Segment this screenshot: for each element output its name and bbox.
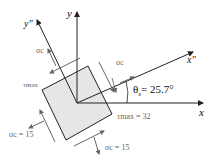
- x-axis-label: x: [199, 107, 204, 118]
- y-rotated-axis-label: y": [24, 19, 33, 29]
- sigma-bottom-left-label: σc = 15: [9, 131, 33, 139]
- tau-top-shear-arrow: [50, 58, 80, 73]
- tau-left-shear-arrow: [40, 110, 55, 142]
- stress-element-diagram: y y" x" x θs= 25.7° σc σc τmax τmax = 32…: [0, 0, 213, 164]
- tau-left-label: τmax: [23, 82, 38, 89]
- angle-arc: [126, 81, 128, 103]
- angle-label: θs= 25.7°: [133, 84, 174, 98]
- y-axis-label: y: [67, 8, 72, 19]
- sigma-right-label: σc: [116, 59, 124, 67]
- tau-right-label: τmax = 32: [117, 113, 151, 121]
- sigma-left-arrow: [29, 121, 44, 128]
- x-rotated-axis-label: x": [187, 55, 196, 65]
- angle-value: = 25.7°: [141, 83, 174, 95]
- sigma-right-arrow: [120, 77, 134, 83]
- sigma-bottom-arrow: [94, 137, 99, 154]
- sigma-top-label: σc: [36, 47, 44, 55]
- sigma-bottom-label: σc = 15: [105, 144, 129, 152]
- tau-right-shear-arrow: [99, 62, 114, 92]
